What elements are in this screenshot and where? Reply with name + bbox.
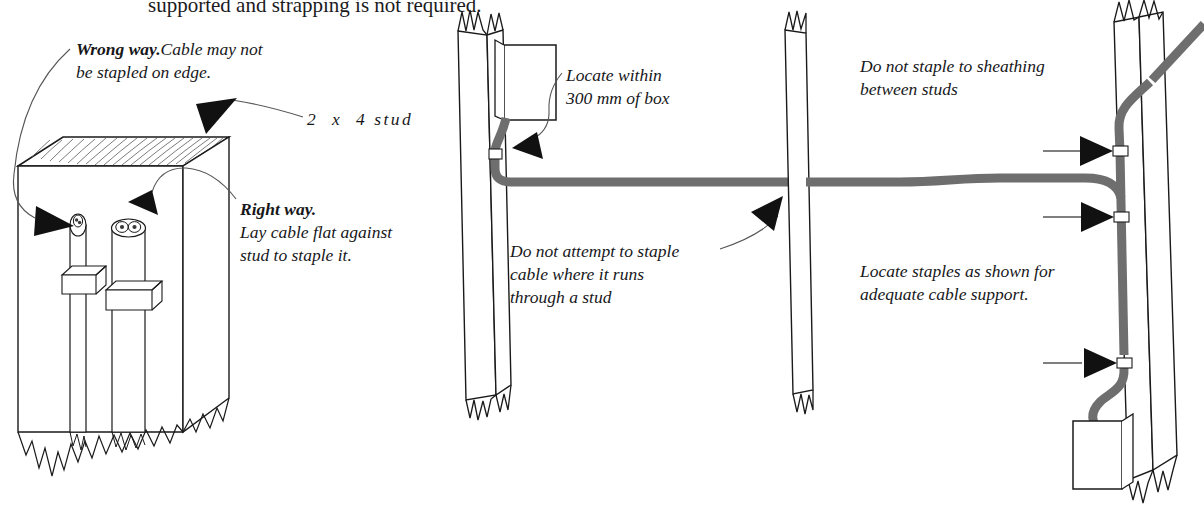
right-run-assembly xyxy=(1043,0,1204,503)
right-way-line1: Lay cable flat against xyxy=(240,222,392,242)
device-box-bottom xyxy=(1073,414,1133,489)
annotation-do-not-staple-stud: Do not attempt to staple cable where it … xyxy=(510,240,679,309)
arrowhead-locate-box xyxy=(512,132,543,159)
middle-center-stud xyxy=(785,11,813,414)
locate-staples-line1: Locate staples as shown for xyxy=(860,261,1054,281)
staple-pointer-arrows xyxy=(1043,136,1117,378)
annotation-stud-label: 2 x 4 stud xyxy=(307,108,413,131)
annotation-wrong-way: Wrong way.Cable may not be stapled on ed… xyxy=(76,38,263,84)
locate-staples-line2: adequate cable support. xyxy=(860,284,1029,304)
annotation-do-not-staple-sheathing: Do not staple to sheathing between studs xyxy=(860,55,1045,101)
locate-box-line1: Locate within xyxy=(566,65,662,85)
right-way-emphasis: Right way. xyxy=(240,199,316,219)
sheathing-line1: Do not staple to sheathing xyxy=(860,56,1045,76)
staple-middle xyxy=(1114,212,1129,222)
leader-stud-label xyxy=(232,100,303,117)
do-not-line2: cable where it runs xyxy=(510,264,644,284)
device-box-top xyxy=(495,40,556,120)
annotation-locate-within-box: Locate within 300 mm of box xyxy=(566,64,670,110)
sheathing-line2: between studs xyxy=(860,79,958,99)
cable-horizontal-join xyxy=(1085,178,1121,198)
cable-horizontal-right xyxy=(806,178,1085,182)
wrong-way-line2: be stapled on edge. xyxy=(76,62,211,82)
cable-vertical-run xyxy=(1120,152,1124,355)
cable-horizontal-left xyxy=(495,168,796,182)
annotation-locate-staples: Locate staples as shown for adequate cab… xyxy=(860,260,1054,306)
do-not-line3: through a stud xyxy=(510,287,611,307)
arrowhead-stud-label xyxy=(196,98,237,134)
annotation-right-way: Right way. Lay cable flat against stud t… xyxy=(240,198,392,267)
illustration-page: supported and strapping is not required. xyxy=(0,0,1204,524)
staple-lower xyxy=(1117,358,1132,368)
do-not-line1: Do not attempt to staple xyxy=(510,241,679,261)
stud-side-face xyxy=(183,137,229,432)
wrong-way-emphasis: Wrong way. xyxy=(76,39,161,59)
wrong-way-line1: Cable may not xyxy=(161,39,263,59)
right-way-line2: stud to staple it. xyxy=(240,245,352,265)
locate-box-line2: 300 mm of box xyxy=(566,88,670,108)
stud-front-face xyxy=(18,166,183,432)
staple-upper xyxy=(1113,146,1128,156)
staple-near-box xyxy=(489,149,502,159)
